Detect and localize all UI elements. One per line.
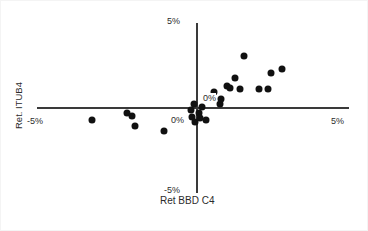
y-axis-tick-zero: 0% (203, 93, 216, 103)
data-point (203, 116, 210, 123)
y-axis-tick-bottom: -5% (164, 185, 180, 195)
scatter-chart: 5% -5% -5% 5% 0% 0% Ret BBD C4 Ret. ITUB… (0, 0, 368, 231)
x-axis-tick-left: -5% (27, 116, 43, 126)
data-point (268, 70, 275, 77)
x-axis-tick-right: 5% (331, 116, 344, 126)
data-point (236, 86, 243, 93)
data-point (218, 95, 225, 102)
y-axis-tick-top: 5% (167, 16, 180, 26)
data-point (198, 104, 205, 111)
data-point (241, 53, 248, 60)
x-axis-title: Ret BBD C4 (160, 195, 214, 206)
data-point (160, 127, 167, 134)
data-point (227, 84, 234, 91)
data-point (265, 86, 272, 93)
data-point (89, 116, 96, 123)
data-point (131, 122, 138, 129)
data-point (190, 100, 197, 107)
data-point (279, 65, 286, 72)
data-point (256, 86, 263, 93)
data-point (128, 112, 135, 119)
x-axis-tick-zero: 0% (171, 115, 184, 125)
data-point (232, 75, 239, 82)
y-axis-title: Ret. ITUB4 (13, 82, 24, 129)
